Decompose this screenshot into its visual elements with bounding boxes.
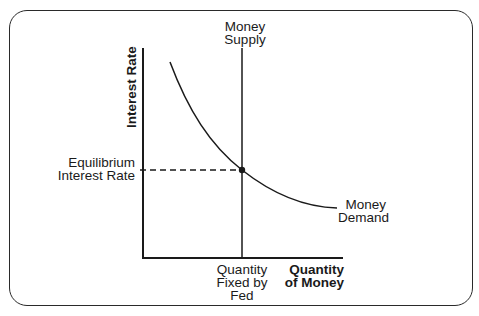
y-axis-label: Interest Rate (124, 46, 139, 128)
money-demand-label-line2: Demand (338, 211, 386, 224)
fixed-quantity-line3: Fed (212, 289, 272, 302)
money-supply-label-line2: Supply (222, 33, 268, 46)
x-axis-label: Quantity of Money (280, 263, 344, 289)
money-demand-curve (170, 62, 337, 208)
fixed-quantity-label: Quantity Fixed by Fed (212, 263, 272, 302)
money-supply-label: Money Supply (222, 20, 268, 46)
x-axis-label-line2: of Money (280, 276, 344, 289)
equilibrium-point (239, 167, 245, 173)
money-demand-label: Money Demand (338, 198, 386, 224)
equilibrium-rate-label: Equilibrium Interest Rate (50, 156, 135, 182)
equilibrium-label-line2: Interest Rate (50, 169, 135, 182)
